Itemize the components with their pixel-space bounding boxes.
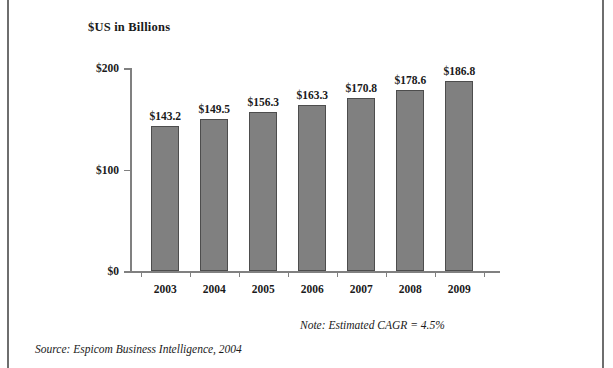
page-border-left xyxy=(7,0,9,368)
y-axis-label: $0 xyxy=(108,265,120,277)
chart-note: Note: Estimated CAGR = 4.5% xyxy=(300,319,445,331)
y-axis-tick xyxy=(124,68,130,70)
bar-2003: $143.2 xyxy=(151,126,179,271)
x-axis-label-2007: 2007 xyxy=(350,283,373,295)
bar-2004: $149.5 xyxy=(200,119,228,271)
y-axis-line xyxy=(130,68,132,271)
x-axis-tick xyxy=(435,271,437,277)
y-axis-label: $100 xyxy=(96,164,119,176)
bar-2005: $156.3 xyxy=(249,112,277,271)
page-border-right xyxy=(602,0,604,368)
x-axis-label-2003: 2003 xyxy=(154,283,177,295)
x-axis-line xyxy=(130,271,500,273)
x-axis-tick xyxy=(337,271,339,277)
x-axis-tick xyxy=(190,271,192,277)
x-axis-tick xyxy=(141,271,143,277)
bar-2007: $170.8 xyxy=(347,98,375,271)
chart-title: $US in Billions xyxy=(88,20,170,35)
bar-2009: $186.8 xyxy=(445,81,473,271)
plot-area: $0$100$200$143.22003$149.52004$156.32005… xyxy=(130,68,500,271)
x-axis-tick xyxy=(288,271,290,277)
x-axis-label-2005: 2005 xyxy=(252,283,275,295)
bar-value-label: $156.3 xyxy=(247,96,279,108)
chart-page: $US in Billions $0$100$200$143.22003$149… xyxy=(0,0,613,368)
bar-value-label: $149.5 xyxy=(198,103,230,115)
bar-value-label: $178.6 xyxy=(395,74,427,86)
x-axis-label-2008: 2008 xyxy=(399,283,422,295)
y-axis-tick xyxy=(124,170,130,172)
bar-value-label: $163.3 xyxy=(296,89,328,101)
chart-source: Source: Espicom Business Intelligence, 2… xyxy=(35,343,242,355)
bar-value-label: $170.8 xyxy=(345,82,377,94)
x-axis-label-2009: 2009 xyxy=(448,283,471,295)
y-axis-label: $200 xyxy=(96,62,119,74)
x-axis-tick xyxy=(239,271,241,277)
x-axis-label-2004: 2004 xyxy=(203,283,226,295)
bar-value-label: $186.8 xyxy=(444,65,476,77)
x-axis-tick xyxy=(386,271,388,277)
x-axis-label-2006: 2006 xyxy=(301,283,324,295)
y-axis-tick xyxy=(124,271,130,273)
bar-value-label: $143.2 xyxy=(149,110,181,122)
bar-2006: $163.3 xyxy=(298,105,326,271)
bar-2008: $178.6 xyxy=(396,90,424,271)
x-axis-tick xyxy=(484,271,486,277)
